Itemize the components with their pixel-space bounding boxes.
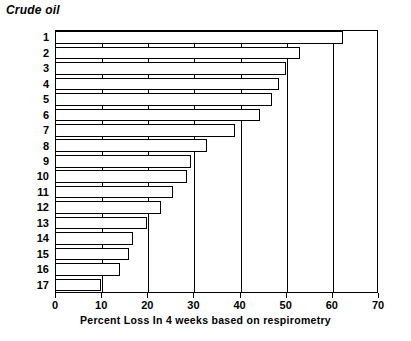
bar-row <box>55 200 378 215</box>
bar-4 <box>55 78 279 91</box>
y-tick-label-11: 11 <box>26 185 52 200</box>
y-tick-label-14: 14 <box>26 231 52 246</box>
bar-17 <box>55 279 101 292</box>
bar-row <box>55 216 378 231</box>
bar-3 <box>55 62 286 75</box>
bar-row <box>55 61 378 76</box>
y-tick-label-8: 8 <box>26 138 52 153</box>
x-tick-60 <box>332 293 333 298</box>
bar-row <box>55 138 378 153</box>
x-tick-label-10: 10 <box>95 299 107 311</box>
chart-title: Crude oil <box>6 3 60 17</box>
bar-row <box>55 107 378 122</box>
y-tick-label-9: 9 <box>26 154 52 169</box>
x-tick-label-60: 60 <box>326 299 338 311</box>
x-tick-0 <box>55 293 56 298</box>
bar-row <box>55 76 378 91</box>
bar-9 <box>55 155 191 168</box>
bar-15 <box>55 248 129 261</box>
x-tick-label-0: 0 <box>52 299 58 311</box>
bar-row <box>55 154 378 169</box>
x-tick-label-70: 70 <box>372 299 384 311</box>
chart-container: Crude oil 1234567891011121314151617 Perc… <box>0 0 411 341</box>
x-tick-30 <box>193 293 194 298</box>
bar-row <box>55 185 378 200</box>
y-tick-label-17: 17 <box>26 278 52 293</box>
y-tick-label-16: 16 <box>26 262 52 277</box>
bar-row <box>55 278 378 293</box>
bar-row <box>55 123 378 138</box>
y-tick-label-13: 13 <box>26 216 52 231</box>
y-tick-label-3: 3 <box>26 61 52 76</box>
bar-12 <box>55 201 161 214</box>
bar-13 <box>55 217 147 230</box>
bar-row <box>55 45 378 60</box>
bar-16 <box>55 263 120 276</box>
bar-11 <box>55 186 173 199</box>
bar-14 <box>55 232 133 245</box>
y-tick-label-1: 1 <box>26 30 52 45</box>
bar-row <box>55 231 378 246</box>
y-tick-label-2: 2 <box>26 45 52 60</box>
y-tick-label-6: 6 <box>26 107 52 122</box>
bar-row <box>55 30 378 45</box>
x-tick-50 <box>286 293 287 298</box>
x-tick-20 <box>147 293 148 298</box>
bar-row <box>55 247 378 262</box>
y-tick-label-4: 4 <box>26 76 52 91</box>
bar-10 <box>55 170 187 183</box>
x-tick-label-50: 50 <box>280 299 292 311</box>
bar-6 <box>55 109 260 122</box>
bar-row <box>55 169 378 184</box>
x-tick-40 <box>240 293 241 298</box>
x-tick-10 <box>101 293 102 298</box>
y-axis-tick-labels: 1234567891011121314151617 <box>26 30 52 293</box>
y-tick-label-5: 5 <box>26 92 52 107</box>
bar-row <box>55 262 378 277</box>
x-tick-label-30: 30 <box>187 299 199 311</box>
bar-row <box>55 92 378 107</box>
x-tick-label-20: 20 <box>141 299 153 311</box>
bar-2 <box>55 47 300 60</box>
bar-5 <box>55 93 272 106</box>
y-tick-label-12: 12 <box>26 200 52 215</box>
bar-1 <box>55 31 343 44</box>
x-tick-label-40: 40 <box>233 299 245 311</box>
y-tick-label-7: 7 <box>26 123 52 138</box>
y-tick-label-10: 10 <box>26 169 52 184</box>
x-axis-title: Percent Loss In 4 weeks based on respiro… <box>0 314 411 326</box>
y-tick-label-15: 15 <box>26 247 52 262</box>
x-tick-70 <box>378 293 379 298</box>
bar-8 <box>55 139 207 152</box>
bar-series <box>55 30 378 293</box>
bar-7 <box>55 124 235 137</box>
